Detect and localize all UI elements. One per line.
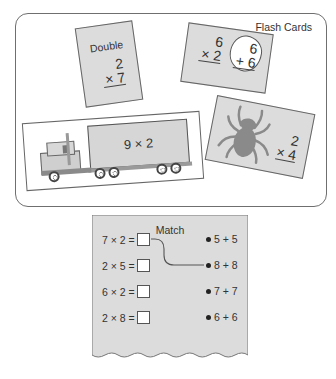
bullet-dot-icon: [206, 237, 211, 242]
thought-cloud: 6 + 6: [227, 34, 264, 74]
bullet-dot-icon: [206, 289, 211, 294]
option-text: 8 + 8: [214, 259, 238, 271]
bottom-number: × 4: [275, 145, 297, 164]
bullet-dot-icon: [206, 263, 211, 268]
card-label: Double: [78, 36, 135, 56]
option-text: 5 + 5: [214, 233, 238, 245]
card-problem: 2 × 7: [100, 56, 126, 88]
option-item[interactable]: 6 + 6: [206, 311, 238, 323]
problem-row: 2 × 8 =: [102, 311, 150, 324]
truck-cab-top: [46, 141, 75, 157]
answer-box[interactable]: [137, 285, 150, 298]
problem-text: 2 × 8 =: [102, 312, 135, 324]
problem-text: 6 × 2 =: [102, 286, 135, 298]
card-problem: 6 × 2: [198, 32, 224, 64]
problem-text: 2 × 5 =: [102, 260, 135, 272]
match-worksheet: Match 7 × 2 = 2 × 5 = 6 × 2 = 2 × 8 = 5 …: [92, 215, 248, 365]
flash-card-addition-hint: 6 × 2 6 + 6: [180, 22, 274, 93]
bottom-number: × 7: [102, 70, 126, 88]
wheel-icon: [156, 163, 168, 175]
wheel-icon: [170, 162, 182, 174]
problem-row: 6 × 2 =: [102, 285, 150, 298]
problem-text: 7 × 2 =: [102, 234, 135, 246]
card-problem: 2 × 4: [275, 131, 300, 163]
answer-box[interactable]: [137, 259, 150, 272]
bottom-number: × 2: [198, 46, 222, 64]
truck-problem: 9 × 2: [89, 133, 188, 155]
flash-cards-title: Flash Cards: [255, 21, 312, 33]
answer-box[interactable]: [137, 233, 150, 246]
problem-row: 7 × 2 =: [102, 233, 150, 246]
option-text: 7 + 7: [214, 285, 238, 297]
hint-problem: 6 + 6: [233, 39, 259, 71]
bullet-dot-icon: [206, 315, 211, 320]
answer-box[interactable]: [137, 311, 150, 324]
problem-row: 2 × 5 =: [102, 259, 150, 272]
wheel-icon: [94, 168, 106, 180]
hint-bottom-number: + 6: [233, 53, 257, 71]
flash-card-double: Double 2 × 7: [75, 20, 144, 107]
wheel-icon: [48, 171, 60, 183]
wheel-icon: [108, 167, 120, 179]
option-item[interactable]: 7 + 7: [206, 285, 238, 297]
option-item[interactable]: 8 + 8: [206, 259, 238, 271]
option-item[interactable]: 5 + 5: [206, 233, 238, 245]
spider-icon: [214, 102, 278, 169]
flash-card-truck: 9 × 2: [22, 111, 204, 191]
option-text: 6 + 6: [214, 311, 238, 323]
